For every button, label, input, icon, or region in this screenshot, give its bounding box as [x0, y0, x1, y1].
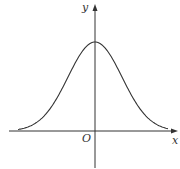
function-graph: y O x	[0, 0, 180, 169]
y-axis-arrow-icon	[93, 4, 98, 11]
x-axis-label: x	[172, 135, 178, 146]
y-axis-label: y	[82, 2, 88, 13]
bell-curve	[18, 42, 168, 129]
x-axis-arrow-icon	[171, 129, 178, 134]
origin-label: O	[82, 133, 91, 144]
